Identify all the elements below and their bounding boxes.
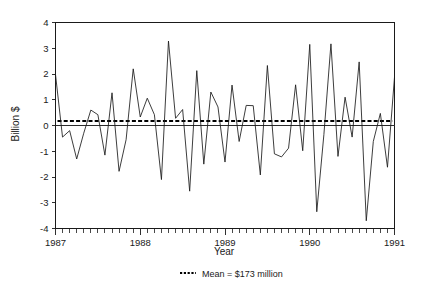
x-tick-label-1988: 1988 bbox=[130, 237, 151, 248]
x-axis-ticks: 19871988198919901991 bbox=[45, 229, 405, 248]
y-tick-label--4: -4 bbox=[40, 223, 48, 234]
x-tick-label-1990: 1990 bbox=[299, 237, 320, 248]
legend-label-mean: Mean = $173 million bbox=[202, 269, 283, 279]
y-tick-label--2: -2 bbox=[40, 171, 48, 182]
chart-figure: -4-3-2-101234 19871988198919901991 Billi… bbox=[0, 0, 424, 288]
y-tick-label--1: -1 bbox=[40, 146, 48, 157]
chart-legend: Mean = $173 million bbox=[180, 269, 283, 279]
y-tick-label-2: 2 bbox=[43, 68, 48, 79]
x-tick-label-1987: 1987 bbox=[45, 237, 66, 248]
y-tick-label--3: -3 bbox=[40, 197, 48, 208]
y-axis-ticks: -4-3-2-101234 bbox=[40, 17, 55, 234]
data-series-line bbox=[56, 41, 395, 221]
y-tick-label-3: 3 bbox=[43, 43, 48, 54]
y-tick-label-4: 4 bbox=[43, 17, 48, 28]
y-axis-title: Billion $ bbox=[10, 106, 21, 141]
x-axis-title: Year bbox=[214, 246, 235, 257]
line-chart: -4-3-2-101234 19871988198919901991 Billi… bbox=[0, 0, 424, 288]
x-tick-label-1991: 1991 bbox=[384, 237, 405, 248]
y-tick-label-0: 0 bbox=[43, 120, 48, 131]
y-tick-label-1: 1 bbox=[43, 94, 48, 105]
